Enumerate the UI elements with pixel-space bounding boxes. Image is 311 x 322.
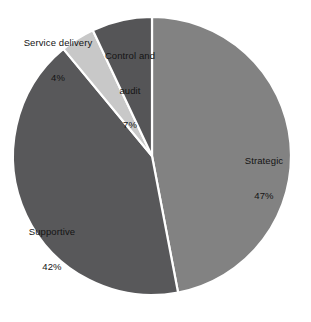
slice-label-control-and-audit-value: 7% bbox=[94, 119, 166, 131]
slice-label-strategic: Strategic 47% bbox=[228, 132, 300, 224]
slice-label-supportive: Supportive 42% bbox=[12, 203, 92, 295]
slice-label-supportive-name: Supportive bbox=[12, 226, 92, 238]
pie-chart: Service delivery 4% Control and audit 7%… bbox=[0, 0, 311, 322]
slice-label-control-and-audit: Control and audit 7% bbox=[94, 27, 166, 154]
slice-label-strategic-value: 47% bbox=[228, 190, 300, 202]
slice-label-control-and-audit-name-line2: audit bbox=[94, 85, 166, 97]
slice-label-strategic-name: Strategic bbox=[228, 155, 300, 167]
slice-label-control-and-audit-name-line1: Control and bbox=[94, 50, 166, 62]
slice-label-supportive-value: 42% bbox=[12, 261, 92, 273]
